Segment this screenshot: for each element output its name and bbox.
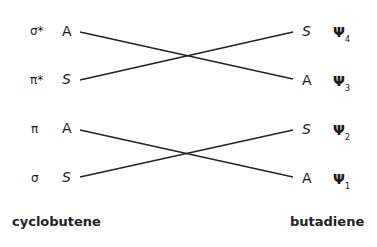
symmetry-label: S: [62, 72, 71, 86]
orbital-label-sigma-star: σ*: [30, 25, 44, 37]
symmetry-label: A: [62, 121, 72, 135]
psi-label-2: Ψ2: [333, 123, 350, 142]
orbital-label-pi-star: π*: [30, 74, 43, 86]
butadiene-title: butadiene: [290, 215, 364, 228]
symmetry-label: S: [302, 122, 311, 136]
psi-label-1: Ψ1: [333, 172, 350, 191]
symmetry-label: S: [62, 170, 71, 184]
psi-label-3: Ψ3: [333, 74, 350, 93]
cyclobutene-title: cyclobutene: [12, 215, 101, 228]
psi-label-4: Ψ4: [333, 25, 350, 44]
symmetry-label: S: [302, 24, 311, 38]
orbital-label-pi: π: [31, 123, 38, 135]
symmetry-label: A: [302, 171, 312, 185]
orbital-label-sigma: σ: [31, 172, 39, 184]
correlation-lines: [0, 0, 377, 247]
symmetry-label: A: [62, 24, 72, 38]
symmetry-label: A: [302, 73, 312, 87]
